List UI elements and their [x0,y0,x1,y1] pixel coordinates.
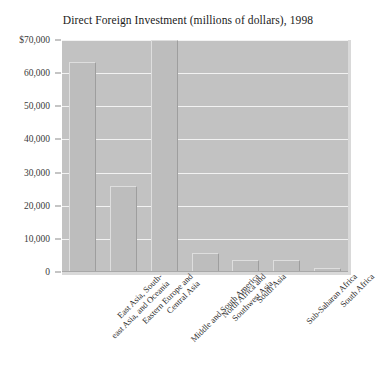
bar [110,186,137,272]
y-axis-tick-label: 50,000 [24,101,50,111]
bar [151,40,178,272]
y-axis-tick-mark [55,106,61,107]
y-axis-tick-label: 40,000 [24,134,50,144]
y-axis-tick-mark [55,40,61,41]
y-axis-tick-label: 30,000 [24,168,50,178]
y-axis-tick-label: 10,000 [24,234,50,244]
y-axis-tick-mark [55,205,61,206]
chart-container: Direct Foreign Investment (millions of d… [0,0,376,384]
chart-title: Direct Foreign Investment (millions of d… [0,14,376,26]
y-axis-tick-mark [55,73,61,74]
bar-series [62,40,348,272]
y-axis-tick-mark [55,238,61,239]
y-axis-tick-label: 60,000 [24,68,50,78]
y-axis-tick-label: $70,000 [19,35,50,45]
bar [69,62,96,272]
x-axis: East Asia, South-east Asia, and OceaniaE… [0,272,376,384]
y-axis-tick-label: 20,000 [24,201,50,211]
bar [192,253,219,272]
y-axis: $70,00060,00050,00040,00030,00020,00010,… [0,40,58,272]
plot-area [62,40,348,272]
y-axis-tick-mark [55,172,61,173]
y-axis-tick-mark [55,139,61,140]
